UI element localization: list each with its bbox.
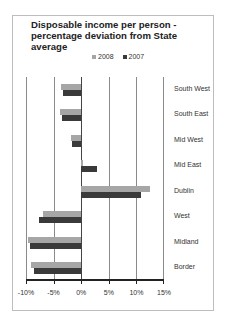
bar-2007 xyxy=(34,268,81,274)
plot-area xyxy=(26,77,164,281)
gridline xyxy=(109,77,110,281)
category-label: Dublin xyxy=(174,187,194,194)
category-label: Border xyxy=(174,263,195,270)
gridline xyxy=(81,77,82,281)
legend-label-2008: 2008 xyxy=(98,53,114,60)
bar-2007 xyxy=(62,115,81,121)
chart-title: Disposable income per person - percentag… xyxy=(31,19,211,52)
title-line-1: Disposable income per person - xyxy=(31,19,211,30)
category-label: South East xyxy=(174,110,208,117)
legend-swatch-2008 xyxy=(92,55,96,59)
category-label: West xyxy=(174,212,190,219)
bar-2007 xyxy=(30,243,81,249)
gridline xyxy=(54,77,55,281)
title-line-2: percentage deviation from State xyxy=(31,30,211,41)
bar-2007 xyxy=(81,166,97,172)
x-tick-label: 10% xyxy=(129,289,143,296)
x-tick-label: -5% xyxy=(47,289,59,296)
bar-2007 xyxy=(39,217,81,223)
x-tick-label: 5% xyxy=(104,289,114,296)
legend-label-2007: 2007 xyxy=(129,53,145,60)
category-label: Mid East xyxy=(174,161,201,168)
bar-2007 xyxy=(63,90,81,96)
category-label: South West xyxy=(174,85,210,92)
legend-item-2007: 2007 xyxy=(123,53,145,60)
x-tick-label: -10% xyxy=(18,289,34,296)
chart-legend: 2008 2007 xyxy=(92,53,144,60)
category-label: Midland xyxy=(174,238,199,245)
category-label: Mid West xyxy=(174,136,203,143)
legend-swatch-2007 xyxy=(123,55,127,59)
x-tick-label: 15% xyxy=(157,289,171,296)
gridline xyxy=(26,77,27,281)
title-line-3: average xyxy=(31,41,211,52)
x-tick-label: 0% xyxy=(76,289,86,296)
legend-item-2008: 2008 xyxy=(92,53,114,60)
bar-2007 xyxy=(72,141,81,147)
bar-2007 xyxy=(81,192,141,198)
gridline xyxy=(136,77,137,281)
x-axis xyxy=(26,279,164,281)
plot-right-border xyxy=(163,77,164,281)
